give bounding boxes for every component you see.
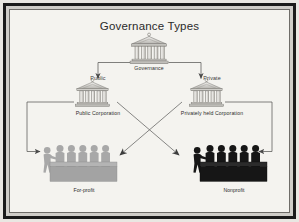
diagram-title: Governance Types (10, 20, 289, 32)
for-profit-node-icon (43, 145, 117, 181)
public-node-icon (75, 79, 109, 106)
diagram-canvas: Governance Types Governance Public Publi… (10, 10, 289, 212)
governance-node-label: Governance (109, 65, 189, 71)
slide-root: Governance Types Governance Public Publi… (0, 0, 299, 222)
for-profit-node-label: For-profit (44, 187, 124, 193)
nonprofit-node-label: Nonprofit (194, 187, 274, 193)
public-node-top-label: Public (68, 75, 128, 81)
private-node-label: Privately held Corporation (165, 110, 259, 116)
private-node-icon (189, 79, 223, 106)
public-node-label: Public Corporation (58, 110, 138, 116)
private-node-top-label: Private (182, 75, 242, 81)
governance-node-icon (130, 33, 168, 63)
nonprofit-node-icon (193, 145, 267, 181)
